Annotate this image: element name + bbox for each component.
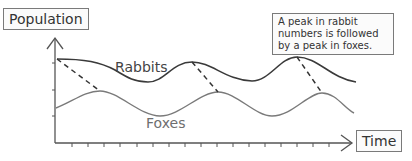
annotation-box: A peak in rabbit numbers is followed by … [272,13,394,55]
foxes-curve [56,91,354,116]
x-axis-label: Time [356,130,402,152]
lag-link [192,62,218,92]
y-axis-label: Population [3,8,89,30]
lag-link [297,57,322,93]
lag-link [57,59,100,91]
rabbits-label: Rabbits [115,59,167,75]
foxes-label: Foxes [146,115,185,131]
